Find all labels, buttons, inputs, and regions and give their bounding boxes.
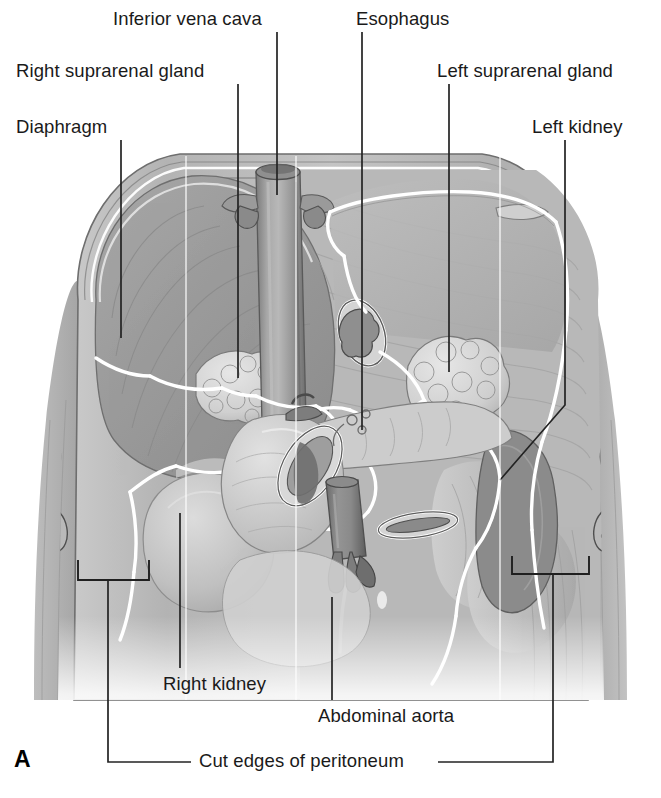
panel-letter: A xyxy=(14,748,31,771)
label-cut-edges-of-peritoneum: Cut edges of peritoneum xyxy=(199,752,404,771)
label-diaphragm: Diaphragm xyxy=(16,118,107,137)
label-left-kidney: Left kidney xyxy=(532,118,623,137)
label-right-kidney: Right kidney xyxy=(163,675,266,694)
label-abdominal-aorta: Abdominal aorta xyxy=(318,707,454,726)
anatomy-figure: Inferior vena cava Esophagus Right supra… xyxy=(0,0,661,798)
label-left-suprarenal-gland: Left suprarenal gland xyxy=(437,62,613,81)
label-inferior-vena-cava: Inferior vena cava xyxy=(113,10,262,29)
label-esophagus: Esophagus xyxy=(356,10,449,29)
label-right-suprarenal-gland: Right suprarenal gland xyxy=(16,62,204,81)
